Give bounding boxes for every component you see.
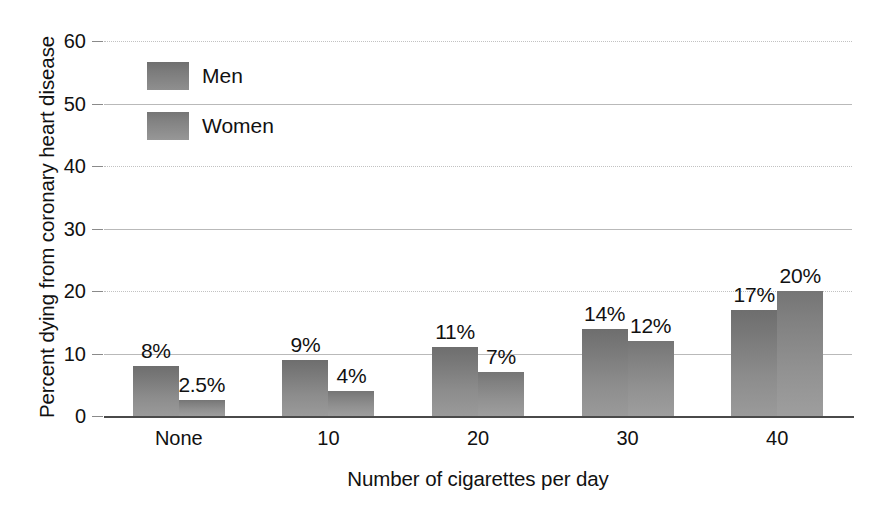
y-tick-label: 50	[64, 92, 86, 115]
bar-women-10	[328, 391, 374, 416]
bar-women-30	[628, 341, 674, 416]
y-tick-mark	[92, 416, 103, 417]
x-tick-label-40: 40	[766, 427, 788, 450]
x-tick-label-10: 10	[317, 427, 339, 450]
legend-label: Men	[202, 64, 243, 88]
x-axis-title: Number of cigarettes per day	[104, 467, 852, 491]
bar-men-30	[582, 329, 628, 417]
x-axis-line	[104, 416, 854, 418]
y-tick-label: 30	[64, 217, 86, 240]
bar-men-20	[432, 347, 478, 416]
bar-value-label: 9%	[291, 333, 321, 357]
gridline	[104, 166, 852, 168]
legend-swatch-icon	[147, 112, 189, 140]
bar-chart: Percent dying from coronary heart diseas…	[0, 0, 889, 511]
plot-area: 8%2.5%9%4%11%7%14%12%17%20%	[104, 41, 852, 416]
y-tick-label: 10	[64, 342, 86, 365]
bar-value-label: 17%	[734, 283, 775, 307]
bar-value-label: 20%	[780, 264, 821, 288]
y-tick-mark	[92, 104, 103, 105]
bar-men-40	[731, 310, 777, 416]
x-tick-label-none: None	[155, 427, 203, 450]
bar-value-label: 4%	[337, 364, 367, 388]
bar-value-label: 7%	[486, 345, 516, 369]
bar-women-20	[478, 372, 524, 416]
y-tick-mark	[92, 166, 103, 167]
bar-value-label: 11%	[435, 320, 475, 344]
x-tick-label-20: 20	[467, 427, 489, 450]
y-tick-mark	[92, 354, 103, 355]
legend-swatch-icon	[147, 62, 189, 90]
gridline	[104, 104, 852, 105]
bar-value-label: 8%	[141, 339, 171, 363]
bar-value-label: 12%	[630, 314, 671, 338]
legend-label: Women	[202, 114, 274, 138]
legend-item-men: Men	[147, 62, 243, 90]
gridline	[104, 229, 852, 230]
bar-women-none	[179, 400, 225, 416]
y-axis-ticks: 0102030405060	[48, 0, 86, 511]
bar-value-label: 2.5%	[178, 373, 225, 397]
bar-women-40	[777, 291, 823, 416]
y-tick-mark	[92, 41, 103, 42]
y-tick-mark	[92, 229, 103, 230]
y-tick-label: 20	[64, 280, 86, 303]
y-tick-label: 40	[64, 155, 86, 178]
y-tick-label: 0	[75, 405, 86, 428]
x-tick-label-30: 30	[616, 427, 638, 450]
bar-men-none	[133, 366, 179, 416]
bar-value-label: 14%	[584, 302, 625, 326]
y-tick-label: 60	[64, 30, 86, 53]
gridline	[104, 41, 852, 43]
bar-men-10	[282, 360, 328, 416]
y-tick-mark	[92, 291, 103, 292]
legend-item-women: Women	[147, 112, 274, 140]
